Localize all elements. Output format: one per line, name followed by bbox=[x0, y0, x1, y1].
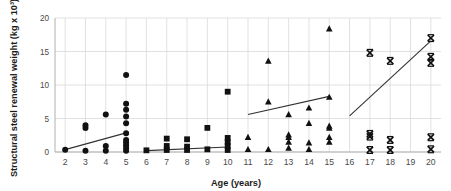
x-tick-label: 19 bbox=[406, 157, 416, 167]
data-point-circle bbox=[123, 72, 129, 78]
data-point-square bbox=[204, 125, 210, 131]
y-axis-title: Structural steel renewal weight (kg x 10… bbox=[9, 0, 19, 177]
x-tick-label: 8 bbox=[185, 157, 190, 167]
x-tick-label: 20 bbox=[426, 157, 436, 167]
data-point-circle bbox=[82, 122, 88, 128]
data-point-circle bbox=[62, 147, 68, 153]
y-tick-label: 10 bbox=[40, 81, 50, 90]
x-tick-label: 3 bbox=[83, 157, 88, 167]
x-tick-label: 15 bbox=[324, 157, 334, 167]
chart-figure: 05101520 234567891011121314151617181920 … bbox=[0, 0, 451, 191]
x-tick-label: 4 bbox=[103, 157, 108, 167]
data-point-square bbox=[144, 147, 150, 153]
x-tick-label: 18 bbox=[385, 157, 395, 167]
data-point-circle bbox=[103, 111, 109, 117]
data-point-circle bbox=[123, 130, 129, 136]
y-tick-label: 0 bbox=[44, 148, 49, 157]
data-point-circle bbox=[123, 101, 129, 107]
x-tick-label: 9 bbox=[205, 157, 210, 167]
data-point-circle bbox=[82, 148, 88, 154]
x-tick-label: 12 bbox=[264, 157, 274, 167]
x-tick-label: 6 bbox=[144, 157, 149, 167]
x-tick-label: 7 bbox=[164, 157, 169, 167]
scatter-chart: 05101520 234567891011121314151617181920 … bbox=[0, 0, 451, 191]
data-point-square bbox=[204, 146, 210, 152]
data-point-square bbox=[225, 89, 231, 95]
x-tick-label: 11 bbox=[244, 157, 253, 167]
x-tick-label: 16 bbox=[345, 157, 355, 167]
data-point-square bbox=[184, 136, 190, 142]
x-tick-label: 5 bbox=[124, 157, 129, 167]
data-point-square bbox=[164, 143, 170, 149]
data-point-circle bbox=[123, 113, 129, 119]
data-point-square bbox=[225, 135, 231, 141]
x-axis-title: Age (years) bbox=[211, 178, 261, 188]
x-tick-label: 2 bbox=[63, 157, 68, 167]
y-tick-label: 15 bbox=[40, 48, 50, 57]
data-point-circle bbox=[123, 120, 129, 126]
x-tick-label: 17 bbox=[365, 157, 375, 167]
x-tick-label: 14 bbox=[304, 157, 314, 167]
y-tick-label: 5 bbox=[44, 115, 49, 124]
x-tick-label: 10 bbox=[223, 157, 233, 167]
y-tick-label: 20 bbox=[40, 14, 50, 23]
data-point-square bbox=[164, 136, 170, 142]
data-point-square bbox=[184, 144, 190, 150]
data-point-circle bbox=[123, 137, 129, 143]
data-point-circle bbox=[103, 143, 109, 149]
data-point-circle bbox=[123, 107, 129, 113]
x-tick-label: 13 bbox=[284, 157, 294, 167]
